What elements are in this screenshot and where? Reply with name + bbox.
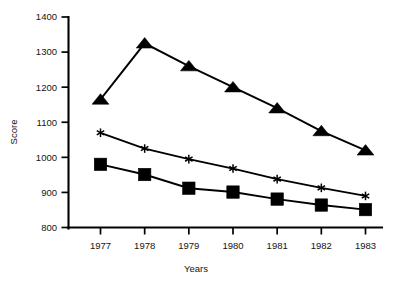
square-series-marker-1978 xyxy=(138,168,150,180)
x-tick-label-1983: 1983 xyxy=(355,240,376,251)
square-series-marker-1983 xyxy=(359,203,371,215)
chart-container: 80090010001100120013001400 Score 1977197… xyxy=(0,0,393,288)
square-series-marker-1980 xyxy=(227,186,239,198)
y-tick-label-800: 800 xyxy=(41,222,57,233)
x-axis-tick-labels: 1977197819791980198119821983 xyxy=(90,240,376,251)
triangle-series-marker-1979 xyxy=(180,60,197,70)
y-axis-tick-labels: 80090010001100120013001400 xyxy=(36,11,57,233)
y-tick-label-900: 900 xyxy=(41,187,57,198)
triangle-series-marker-1981 xyxy=(269,103,286,113)
triangle-series-marker-1983 xyxy=(357,145,374,155)
y-axis-title: Score xyxy=(8,120,19,145)
x-axis: 1977197819791980198119821983 Years xyxy=(69,228,383,275)
y-axis: 80090010001100120013001400 Score xyxy=(8,11,69,233)
square-series-marker-1979 xyxy=(183,182,195,194)
triangle-series-marker-1980 xyxy=(225,81,242,91)
square-series-marker-1982 xyxy=(315,199,327,211)
line-chart: 80090010001100120013001400 Score 1977197… xyxy=(0,0,393,288)
y-tick-label-1100: 1100 xyxy=(37,117,57,128)
x-tick-label-1982: 1982 xyxy=(311,240,332,251)
triangle-series-marker-1982 xyxy=(313,125,330,135)
y-tick-label-1000: 1000 xyxy=(36,152,57,163)
x-axis-title: Years xyxy=(184,263,208,274)
x-tick-label-1979: 1979 xyxy=(178,240,199,251)
triangle-series-marker-1977 xyxy=(92,94,109,104)
triangle-series-marker-1978 xyxy=(136,38,153,48)
series-triangle-series xyxy=(92,38,374,155)
x-tick-label-1980: 1980 xyxy=(222,240,243,251)
x-tick-label-1981: 1981 xyxy=(267,240,288,251)
x-tick-label-1978: 1978 xyxy=(134,240,155,251)
y-tick-label-1300: 1300 xyxy=(36,46,57,57)
square-series-marker-1981 xyxy=(271,193,283,205)
series-layer xyxy=(92,38,374,216)
square-series-marker-1977 xyxy=(94,158,106,170)
y-tick-label-1400: 1400 xyxy=(36,11,57,22)
y-tick-label-1200: 1200 xyxy=(36,82,57,93)
x-tick-label-1977: 1977 xyxy=(90,240,111,251)
